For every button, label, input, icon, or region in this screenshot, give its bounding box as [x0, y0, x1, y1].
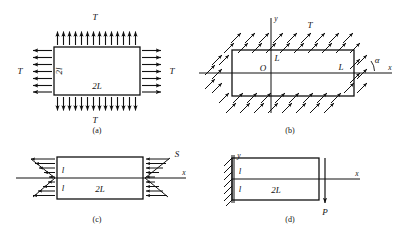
panel-c-width-label: 2L — [95, 184, 105, 194]
panel-d-load-label: P — [321, 207, 328, 217]
panel-a: T T T T 2l 2L (a) — [17, 12, 175, 135]
panel-a-bottom-load-label: T — [92, 115, 98, 125]
panel-d-fixed-support-hatching — [224, 155, 232, 206]
panel-d-half-height-lower-label: l — [239, 184, 242, 194]
panel-b-caption: (b) — [285, 126, 295, 135]
panel-d-caption: (d) — [285, 215, 295, 224]
panel-a-height-label: 2l — [54, 67, 64, 75]
panel-c-x-axis-label: x — [181, 168, 186, 177]
panel-a-top-load-arrows — [58, 32, 136, 46]
panel-d-y-axis-label: y — [236, 151, 241, 160]
panel-d-half-height-upper-label: l — [239, 166, 242, 176]
panel-a-left-load-arrows — [33, 51, 52, 93]
panel-a-width-label: 2L — [92, 81, 102, 91]
panel-b-load-label: T — [307, 20, 313, 30]
panel-a-bottom-load-arrows — [58, 97, 136, 111]
panel-a-caption: (a) — [93, 126, 102, 135]
panel-c-load-label: S — [175, 149, 180, 159]
panel-c-caption: (c) — [93, 215, 102, 224]
panel-a-right-load-arrows — [142, 51, 161, 93]
panel-b: y x O T α L L (b) — [199, 14, 392, 135]
panel-c-half-height-upper-label: l — [62, 165, 65, 175]
panel-b-origin-label: O — [260, 63, 267, 73]
panel-a-left-load-label: T — [17, 66, 23, 76]
panel-d-x-axis-label: x — [354, 169, 359, 178]
panel-d: y x l l 2L P (d) — [224, 151, 360, 224]
panel-b-x-axis-label: x — [387, 63, 392, 72]
panel-a-right-load-label: T — [169, 66, 175, 76]
panel-b-y-axis-label: y — [273, 14, 278, 23]
panel-c-half-height-lower-label: l — [62, 183, 65, 193]
panel-a-top-load-label: T — [92, 12, 98, 22]
panel-b-angle-label: α — [375, 55, 380, 65]
panel-d-width-label: 2L — [271, 185, 281, 195]
panel-c: x S l l 2L (c) — [16, 149, 186, 224]
figure-container: T T T T 2l 2L (a) — [0, 0, 398, 242]
panel-b-half-width-label: L — [337, 62, 343, 72]
panel-b-half-height-label: L — [273, 53, 279, 63]
